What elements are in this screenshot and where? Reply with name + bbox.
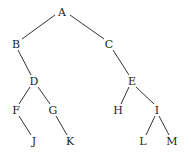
node-a: A xyxy=(57,6,67,19)
node-c: C xyxy=(105,38,113,51)
edge-d-g xyxy=(38,87,50,104)
node-f: F xyxy=(12,104,20,117)
node-i: I xyxy=(155,104,159,117)
node-d: D xyxy=(30,75,39,88)
edge-b-d xyxy=(18,50,31,75)
node-l: L xyxy=(139,135,147,148)
node-b: B xyxy=(12,38,20,51)
tree-nodes: ABCDEFGHIJKLM xyxy=(12,6,178,148)
tree-edges xyxy=(18,15,169,135)
edge-e-h xyxy=(121,87,129,104)
edge-i-m xyxy=(159,116,169,135)
node-h: H xyxy=(113,104,123,117)
node-m: M xyxy=(166,135,177,148)
node-e: E xyxy=(128,75,136,88)
tree-diagram: ABCDEFGHIJKLM xyxy=(0,0,191,160)
node-g: G xyxy=(49,104,58,117)
edge-i-l xyxy=(146,116,155,135)
node-k: K xyxy=(66,135,75,148)
edge-a-c xyxy=(70,15,104,39)
edge-f-j xyxy=(19,116,31,135)
edge-d-f xyxy=(19,87,30,104)
edge-e-i xyxy=(136,87,154,104)
node-j: J xyxy=(31,135,36,148)
edge-a-b xyxy=(22,15,55,39)
edge-c-e xyxy=(113,50,129,75)
edge-g-k xyxy=(56,116,67,135)
